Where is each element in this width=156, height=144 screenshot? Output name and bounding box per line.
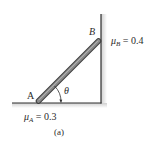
figure-caption: (a) bbox=[54, 127, 64, 137]
subscript-b: B bbox=[116, 40, 120, 48]
equals-a: = bbox=[33, 111, 44, 122]
wall-shadow bbox=[101, 14, 107, 108]
angle-theta-label: θ bbox=[64, 86, 69, 96]
value-a: 0.3 bbox=[44, 111, 57, 122]
angle-arrow-icon bbox=[59, 99, 62, 102]
value-b: 0.4 bbox=[131, 35, 144, 46]
floor-shadow bbox=[12, 103, 107, 108]
equals-b: = bbox=[120, 35, 131, 46]
subscript-a: A bbox=[29, 116, 33, 124]
point-b-label: B bbox=[89, 27, 95, 37]
ladder-friction-diagram: B μB = 0.4 A θ μA = 0.3 (a) bbox=[0, 0, 156, 144]
coefficient-a: μA = 0.3 bbox=[24, 112, 56, 123]
coefficient-b: μB = 0.4 bbox=[111, 36, 143, 47]
point-a-label: A bbox=[27, 91, 34, 101]
